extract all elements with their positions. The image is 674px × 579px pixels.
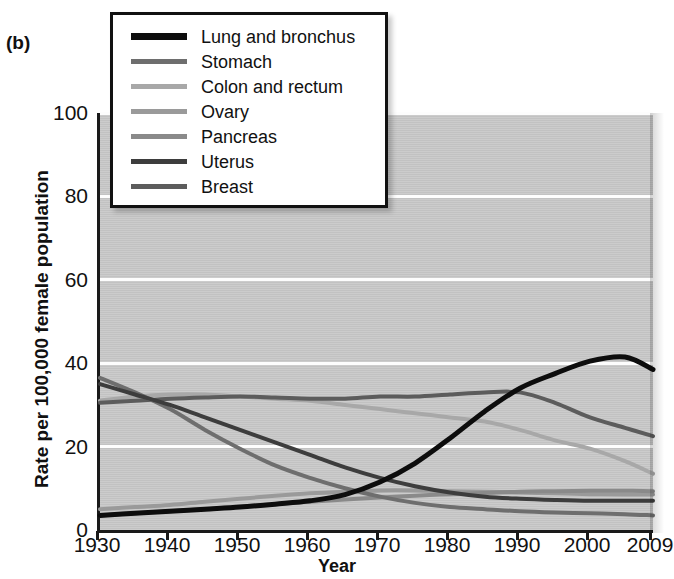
y-tick-label: 40 xyxy=(36,352,88,373)
legend-line-swatch xyxy=(131,159,187,164)
y-tick-label: 60 xyxy=(36,269,88,290)
legend-item: Colon and rectum xyxy=(113,74,385,99)
legend-item: Lung and bronchus xyxy=(113,24,385,49)
legend-item: Uterus xyxy=(113,149,385,174)
legend-label: Ovary xyxy=(201,103,249,121)
legend-label: Stomach xyxy=(201,53,272,71)
x-axis-title: Year xyxy=(0,556,674,577)
x-tick-label: 1940 xyxy=(127,533,207,556)
figure-panel-b: (b) Rate per 100,000 female population Y… xyxy=(0,0,674,579)
legend-line-swatch xyxy=(131,84,187,89)
y-tick-label: 100 xyxy=(36,102,88,123)
x-tick-label: 1990 xyxy=(477,533,557,556)
legend-item: Pancreas xyxy=(113,124,385,149)
legend-item: Breast xyxy=(113,174,385,199)
legend-label: Uterus xyxy=(201,153,254,171)
legend-line-swatch xyxy=(131,109,187,114)
y-tick-label: 80 xyxy=(36,185,88,206)
x-tick-label: 1970 xyxy=(337,533,417,556)
legend-label: Breast xyxy=(201,178,253,196)
legend-box: Lung and bronchusStomachColon and rectum… xyxy=(110,12,388,208)
legend-line-swatch xyxy=(131,33,187,40)
legend-line-swatch xyxy=(131,59,187,64)
x-tick-label: 1950 xyxy=(197,533,277,556)
x-tick-label: 2009 xyxy=(610,533,674,556)
legend-item: Ovary xyxy=(113,99,385,124)
x-tick-label: 1960 xyxy=(267,533,347,556)
y-axis-title: Rate per 100,000 female population xyxy=(31,119,53,539)
y-tick-label: 20 xyxy=(36,436,88,457)
legend-item: Stomach xyxy=(113,49,385,74)
panel-letter: (b) xyxy=(6,32,30,54)
legend-label: Colon and rectum xyxy=(201,78,343,96)
legend-label: Lung and bronchus xyxy=(201,28,355,46)
x-tick-label: 1930 xyxy=(57,533,137,556)
legend-line-swatch xyxy=(131,184,187,189)
legend-line-swatch xyxy=(131,134,187,139)
series-line-breast xyxy=(100,392,653,437)
x-tick-label: 1980 xyxy=(407,533,487,556)
legend-label: Pancreas xyxy=(201,128,277,146)
series-line-colon-and-rectum xyxy=(100,394,653,473)
